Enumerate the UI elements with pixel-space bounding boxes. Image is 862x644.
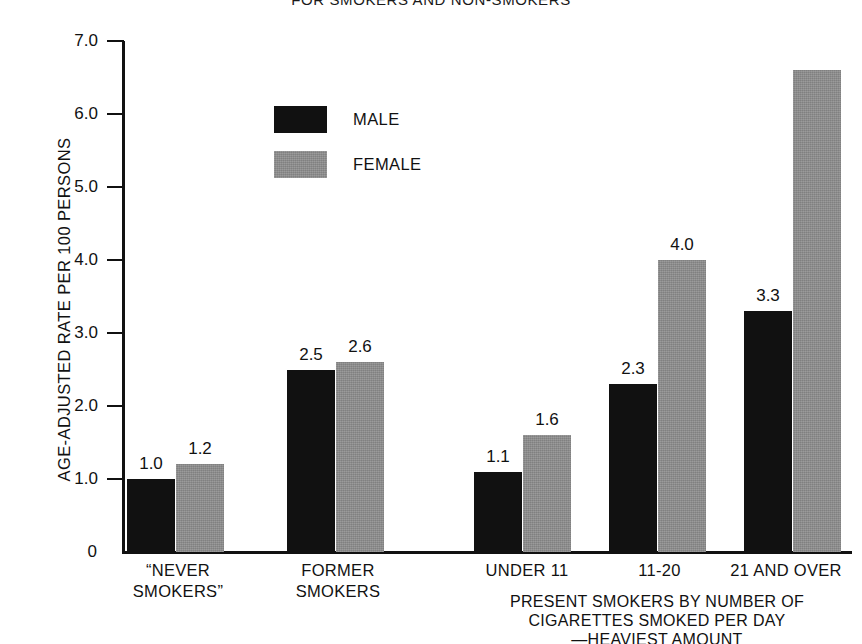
x-axis-caption: PRESENT SMOKERS BY NUMBER OF CIGARETTES … xyxy=(452,592,862,644)
x-axis-category-label: 11-20 xyxy=(612,560,707,581)
y-axis-tick xyxy=(107,332,124,334)
bar-male-0[interactable] xyxy=(127,479,175,552)
x-axis-category-label: UNDER 11 xyxy=(467,560,587,581)
x-axis-category-label: FORMER SMOKERS xyxy=(283,560,393,602)
y-axis-tick-label: 3.0 xyxy=(0,323,98,343)
bar-value-label: 2.3 xyxy=(599,359,667,379)
bar-male-3[interactable] xyxy=(609,384,657,552)
y-axis-tick-label: 4.0 xyxy=(0,250,98,270)
y-axis-tick xyxy=(107,186,124,188)
x-axis-category-label: 21 AND OVER xyxy=(716,560,856,581)
chart-page: FOR SMOKERS AND NON-SMOKERS AGE-ADJUSTED… xyxy=(0,0,862,644)
chart-legend: MALEFEMALE xyxy=(274,103,421,193)
bar-female-3[interactable] xyxy=(658,260,706,552)
bar-female-1[interactable] xyxy=(336,362,384,552)
bar-female-4[interactable] xyxy=(793,70,841,552)
bar-value-label: 1.1 xyxy=(464,447,532,467)
y-axis-tick-label: 6.0 xyxy=(0,104,98,124)
bar-female-0[interactable] xyxy=(176,464,224,552)
bar-value-label: 3.3 xyxy=(734,286,802,306)
chart-title: FOR SMOKERS AND NON-SMOKERS xyxy=(0,0,862,8)
y-axis-tick xyxy=(107,40,124,42)
legend-label-male: MALE xyxy=(353,110,400,129)
y-axis-tick xyxy=(107,259,124,261)
legend-item-male[interactable]: MALE xyxy=(274,103,421,135)
y-axis-tick-label: 0 xyxy=(0,542,97,562)
y-axis-tick xyxy=(107,113,124,115)
legend-item-female[interactable]: FEMALE xyxy=(274,148,421,180)
legend-swatch-male xyxy=(274,106,327,133)
y-axis-tick xyxy=(107,478,124,480)
bar-value-label: 1.6 xyxy=(513,410,581,430)
bar-male-2[interactable] xyxy=(474,472,522,552)
y-axis-tick-label: 5.0 xyxy=(0,177,98,197)
bar-male-1[interactable] xyxy=(287,370,335,553)
legend-swatch-female xyxy=(274,151,327,178)
bar-value-label: 1.2 xyxy=(166,439,234,459)
y-axis-tick-label: 2.0 xyxy=(0,396,98,416)
bar-value-label: 2.6 xyxy=(326,337,394,357)
legend-label-female: FEMALE xyxy=(353,155,421,174)
bar-male-4[interactable] xyxy=(744,311,792,552)
y-axis-tick xyxy=(107,405,124,407)
bar-value-label: 4.0 xyxy=(648,235,716,255)
bar-female-2[interactable] xyxy=(523,435,571,552)
y-axis-tick-label: 7.0 xyxy=(0,31,98,51)
y-axis-tick-label: 1.0 xyxy=(0,469,98,489)
x-axis-category-label: “NEVER SMOKERS” xyxy=(123,560,233,602)
